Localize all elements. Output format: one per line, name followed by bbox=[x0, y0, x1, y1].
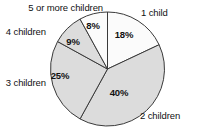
pie-category-label-5-or-more-children: 5 or more children bbox=[28, 2, 103, 13]
pie-slices-group bbox=[50, 12, 164, 126]
pie-chart-canvas: 18%40%25%9%8% 1 child2 children3 childre… bbox=[0, 0, 201, 130]
pie-chart-figure: 18%40%25%9%8% 1 child2 children3 childre… bbox=[0, 0, 201, 130]
pie-category-label-4-children: 4 children bbox=[6, 26, 46, 37]
pie-category-label-2-children: 2 children bbox=[140, 110, 180, 121]
pie-percent-label-1-child: 18% bbox=[115, 29, 134, 40]
pie-category-label-3-children: 3 children bbox=[6, 77, 46, 88]
pie-percent-label-2-children: 40% bbox=[110, 87, 129, 98]
pie-percent-label-5-or-more-children: 8% bbox=[86, 20, 100, 31]
pie-category-label-1-child: 1 child bbox=[141, 7, 168, 18]
pie-percent-label-4-children: 9% bbox=[66, 36, 80, 47]
pie-percent-label-3-children: 25% bbox=[51, 70, 70, 81]
